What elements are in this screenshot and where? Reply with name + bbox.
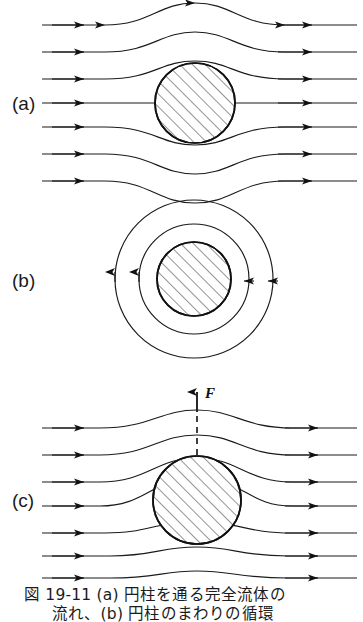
panel-c: (c) F bbox=[12, 385, 357, 578]
streamline bbox=[42, 32, 357, 52]
force-label: F bbox=[204, 385, 215, 401]
panel-a: (a) bbox=[12, 3, 357, 203]
panel-b-label: (b) bbox=[12, 270, 35, 291]
panel-c-label: (c) bbox=[12, 490, 34, 511]
streamline bbox=[42, 547, 357, 556]
streamline bbox=[42, 154, 357, 174]
lift-force-indicator: F bbox=[197, 385, 215, 455]
streamline bbox=[42, 435, 357, 455]
streamline bbox=[42, 410, 357, 428]
panel-c-cylinder bbox=[148, 451, 246, 549]
panel-a-cylinder bbox=[150, 58, 240, 148]
cylinder-hatching bbox=[150, 58, 240, 148]
panel-a-label: (a) bbox=[12, 93, 35, 114]
panel-b: (b) bbox=[12, 200, 278, 358]
streamline bbox=[42, 3, 357, 25]
cylinder-hatching bbox=[148, 451, 246, 549]
figure-caption: 図 19-11 (a) 円柱を通る完全流体の 流れ、(b) 円柱のまわりの循環 bbox=[0, 586, 363, 622]
figure-root: (a) bbox=[0, 0, 363, 622]
streamline bbox=[42, 571, 357, 578]
fluid-flow-figure: (a) bbox=[0, 0, 363, 622]
caption-line-2: 流れ、(b) 円柱のまわりの循環 bbox=[0, 605, 363, 622]
panel-b-cylinder bbox=[152, 237, 236, 321]
caption-line-1: 図 19-11 (a) 円柱を通る完全流体の bbox=[0, 586, 363, 605]
cylinder-hatching bbox=[152, 237, 236, 321]
